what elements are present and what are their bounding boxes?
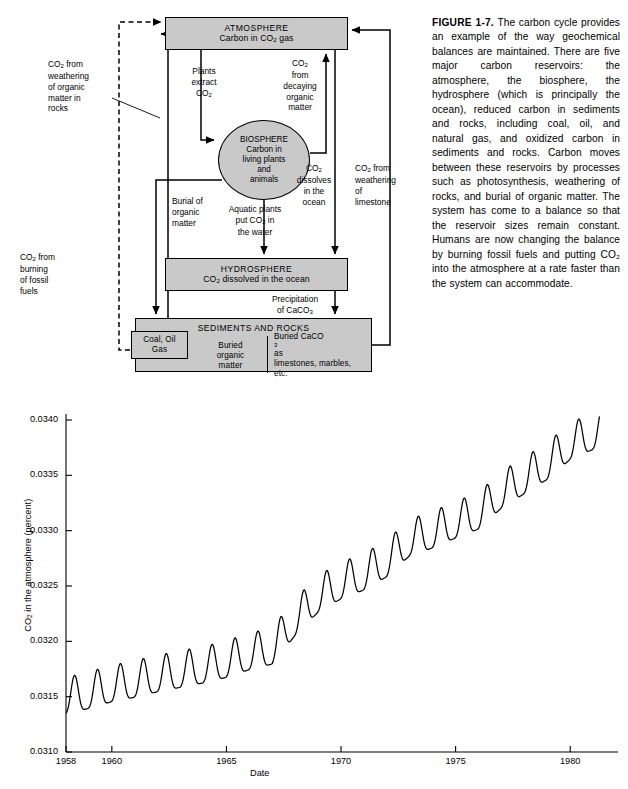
label-weathering-limestone: CO2 fromweatheringoflimestone [355, 163, 423, 207]
cell-buried-caco3: Buried CaCO3 aslimestones, marbles,etc. [268, 336, 373, 373]
box-hydrosphere-title: HYDROSPHERE [221, 264, 292, 275]
figure-page: ATMOSPHERE Carbon in CO2 gas HYDROSPHERE… [0, 0, 628, 789]
circle-biosphere-title: BIOSPHERE [240, 135, 288, 145]
chart-y-tick-label: 0.0340 [10, 414, 58, 424]
chart-x-axis-label: Date [250, 768, 269, 778]
label-burning-fossil-fuels: CO2 fromburningof fossilfuels [20, 252, 90, 296]
cell-coal-oil-gas: Coal, OilGas [131, 331, 188, 359]
chart-y-tick-label: 0.0325 [10, 580, 58, 590]
box-hydrosphere-subtitle: CO2 dissolved in the ocean [203, 274, 309, 285]
chart-x-tick-label: 1980 [550, 756, 590, 766]
label-plants-extract-co2: PlantsextractCO2 [178, 66, 230, 100]
chart-x-tick-label: 1960 [92, 756, 132, 766]
keeling-curve-chart: CO2 in the atmosphere (percent) Date 0.0… [0, 392, 628, 789]
label-weathering-organic-matter: CO2 fromweatheringof organicmatter inroc… [48, 59, 120, 114]
chart-y-tick-label: 0.0310 [10, 746, 58, 756]
box-hydrosphere: HYDROSPHERE CO2 dissolved in the ocean [165, 258, 348, 291]
chart-y-tick-label: 0.0315 [10, 691, 58, 701]
figure-caption: FIGURE 1-7. The carbon cycle provides an… [432, 16, 620, 291]
chart-x-tick-label: 1958 [46, 756, 86, 766]
figure-number: FIGURE 1-7. [432, 17, 494, 28]
box-atmosphere-title: ATMOSPHERE [224, 23, 288, 34]
box-atmosphere-subtitle: Carbon in CO2 gas [220, 33, 294, 44]
label-co2-dissolves-ocean: CO2dissolvesin theocean [288, 163, 340, 207]
figure-caption-text: The carbon cycle provides an example of … [432, 17, 620, 289]
chart-x-tick-label: 1975 [436, 756, 476, 766]
box-atmosphere: ATMOSPHERE Carbon in CO2 gas [165, 17, 348, 50]
label-aquatic-plants: Aquatic plantsput CO2 inthe water [210, 204, 300, 238]
chart-data-line [66, 416, 599, 713]
chart-x-tick-label: 1970 [321, 756, 361, 766]
label-decaying-organic-matter: CO2fromdecayingorganicmatter [272, 58, 328, 113]
label-precipitation-caco3: Precipitationof CaCO3 [250, 294, 340, 317]
box-sediments: SEDIMENTS AND ROCKS Buriedorganicmatter … [135, 318, 372, 372]
circle-biosphere-subtitle: Carbon inliving plantsandanimals [243, 145, 286, 184]
chart-x-tick-label: 1965 [206, 756, 246, 766]
chart-canvas [0, 392, 628, 789]
cell-buried-organic-matter: Buriedorganicmatter [193, 336, 268, 373]
chart-y-tick-label: 0.0320 [10, 635, 58, 645]
carbon-cycle-diagram: ATMOSPHERE Carbon in CO2 gas HYDROSPHERE… [0, 0, 420, 392]
chart-y-tick-label: 0.0335 [10, 469, 58, 479]
chart-y-tick-label: 0.0330 [10, 525, 58, 535]
